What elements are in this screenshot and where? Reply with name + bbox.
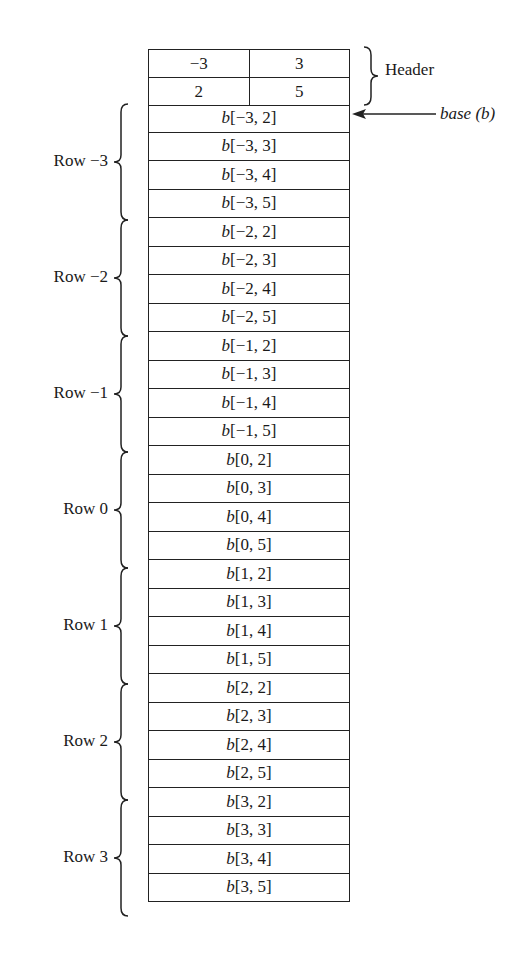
element-cell: b[3, 4] xyxy=(149,844,349,873)
row-group-label: Row 0 xyxy=(8,499,108,519)
row-group-label: Row 1 xyxy=(8,615,108,635)
element-cell: b[−2, 2] xyxy=(149,217,349,246)
element-cell: b[1, 2] xyxy=(149,559,349,588)
row-group-label: Row −2 xyxy=(8,267,108,287)
header-label: Header xyxy=(385,60,434,80)
header-brace-icon xyxy=(362,45,384,107)
element-cell: b[1, 3] xyxy=(149,588,349,617)
base-pointer-label: base (b) xyxy=(440,104,495,124)
header-cell-lower-bound-1: −3 xyxy=(149,50,249,77)
element-cell: b[1, 4] xyxy=(149,616,349,645)
array-storage-diagram: −3 3 2 5 Header base (b) b[−3, 2]b[−3, 3… xyxy=(0,0,530,959)
row-group-brace-icon xyxy=(108,798,130,918)
header-cell-upper-bound-2: 5 xyxy=(249,78,350,105)
row-group-brace-icon xyxy=(108,102,130,222)
element-cell: b[0, 4] xyxy=(149,502,349,531)
header-row-bounds-second: 2 5 xyxy=(149,77,349,105)
element-cell: b[−3, 4] xyxy=(149,160,349,189)
header-table: −3 3 2 5 xyxy=(148,49,350,106)
header-row-bounds-first: −3 3 xyxy=(149,50,349,77)
element-cell: b[−1, 2] xyxy=(149,331,349,360)
element-cell: b[0, 5] xyxy=(149,531,349,560)
base-arrow-icon xyxy=(352,107,437,121)
element-cells: b[−3, 2]b[−3, 3]b[−3, 4]b[−3, 5]b[−2, 2]… xyxy=(148,104,350,902)
element-cell: b[−1, 4] xyxy=(149,388,349,417)
header-cell-lower-bound-2: 2 xyxy=(149,78,249,105)
row-group-brace-icon xyxy=(108,218,130,338)
element-cell: b[3, 2] xyxy=(149,787,349,816)
element-cell: b[2, 3] xyxy=(149,702,349,731)
element-cell: b[0, 3] xyxy=(149,474,349,503)
row-group-brace-icon xyxy=(108,334,130,454)
element-cell: b[−3, 2] xyxy=(149,104,349,132)
element-cell: b[2, 4] xyxy=(149,730,349,759)
element-cell: b[−2, 4] xyxy=(149,274,349,303)
element-cell: b[−3, 3] xyxy=(149,132,349,161)
element-cell: b[2, 2] xyxy=(149,673,349,702)
element-cell: b[−2, 3] xyxy=(149,246,349,275)
header-cell-upper-bound-1: 3 xyxy=(249,50,350,77)
element-cell: b[−1, 3] xyxy=(149,360,349,389)
row-group-brace-icon xyxy=(108,566,130,686)
row-group-label: Row −1 xyxy=(8,383,108,403)
row-group-label: Row 3 xyxy=(8,847,108,867)
element-cell: b[3, 3] xyxy=(149,816,349,845)
element-cell: b[1, 5] xyxy=(149,645,349,674)
element-cell: b[−2, 5] xyxy=(149,303,349,332)
row-group-brace-icon xyxy=(108,682,130,802)
element-cell: b[0, 2] xyxy=(149,445,349,474)
row-group-brace-icon xyxy=(108,450,130,570)
element-cell: b[3, 5] xyxy=(149,873,349,902)
row-group-label: Row −3 xyxy=(8,151,108,171)
element-cell: b[2, 5] xyxy=(149,759,349,788)
element-cell: b[−3, 5] xyxy=(149,189,349,218)
row-group-label: Row 2 xyxy=(8,731,108,751)
element-cell: b[−1, 5] xyxy=(149,417,349,446)
